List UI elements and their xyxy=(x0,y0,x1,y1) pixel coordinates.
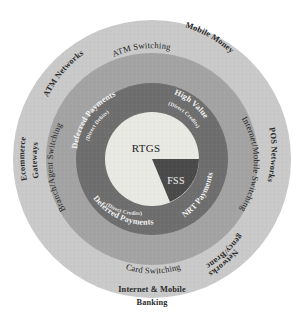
outer-label-internet-mobile-banking-line2: Banking xyxy=(136,298,168,307)
payments-ecosystem-diagram: ATM Networks Mobile Money POS Networks A… xyxy=(0,0,305,322)
concentric-ring-chart: ATM Networks Mobile Money POS Networks A… xyxy=(0,0,305,322)
core-texture xyxy=(105,112,199,206)
core-group xyxy=(105,112,199,206)
